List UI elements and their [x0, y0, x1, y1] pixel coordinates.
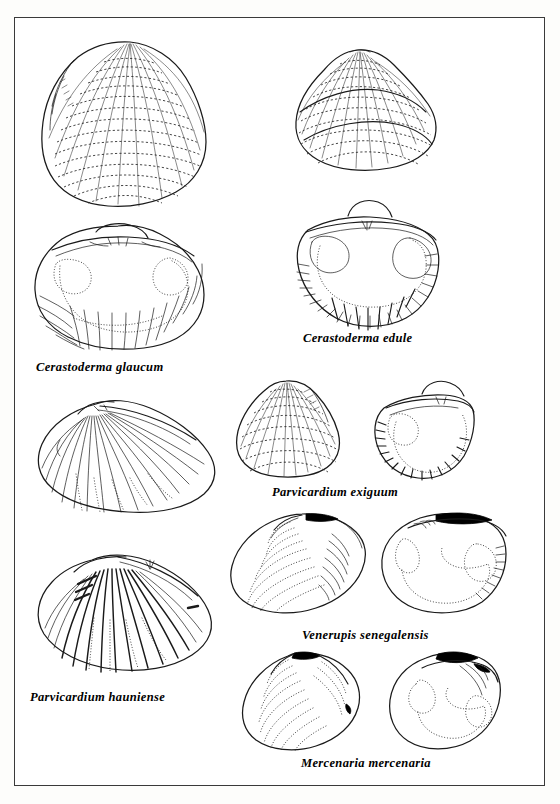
- figure-venerupis-senegalensis-interior: [378, 508, 508, 616]
- species-label-parvicardium-exiguum: Parvicardium exiguum: [272, 485, 398, 500]
- figure-parvicardium-exiguum-exterior: [234, 378, 344, 482]
- figure-parvicardium-hauniense-view-2: [34, 548, 220, 676]
- figure-mercenaria-mercenaria-interior: [386, 648, 506, 752]
- figure-cerastoderma-edule-exterior: [292, 46, 440, 174]
- species-label-cerastoderma-edule: Cerastoderma edule: [303, 331, 412, 346]
- species-label-venerupis-senegalensis: Venerupis senegalensis: [302, 628, 429, 643]
- figure-mercenaria-mercenaria-exterior: [240, 648, 366, 752]
- illustration-plate: Cerastoderma glaucum: [0, 0, 560, 804]
- figure-cerastoderma-glaucum-interior: [30, 222, 210, 350]
- figure-parvicardium-exiguum-interior: [370, 378, 476, 482]
- figure-cerastoderma-edule-interior: [292, 198, 442, 330]
- species-label-parvicardium-hauniense: Parvicardium hauniense: [30, 690, 165, 705]
- species-label-cerastoderma-glaucum: Cerastoderma glaucum: [36, 360, 164, 375]
- species-label-mercenaria-mercenaria: Mercenaria mercenaria: [301, 756, 431, 771]
- figure-parvicardium-hauniense-view-1: [34, 394, 220, 516]
- figure-cerastoderma-glaucum-exterior: [34, 36, 219, 221]
- figure-venerupis-senegalensis-exterior: [228, 508, 368, 616]
